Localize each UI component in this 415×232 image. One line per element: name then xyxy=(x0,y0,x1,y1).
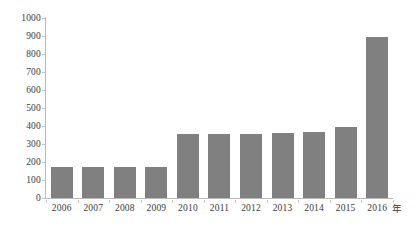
bar-slot xyxy=(204,18,236,198)
y-axis-tick-label: 500 xyxy=(0,103,41,113)
y-axis-tick-mark xyxy=(42,108,45,109)
x-axis-tick-mark xyxy=(330,200,331,203)
bar xyxy=(272,133,294,198)
bar-slot xyxy=(235,18,267,198)
bar-slot xyxy=(361,18,393,198)
bar xyxy=(240,134,262,198)
x-axis-tick-label: 2012 xyxy=(235,203,267,214)
y-axis-tick-mark xyxy=(42,72,45,73)
x-axis-tick-label: 2015 xyxy=(330,203,362,214)
y-axis-tick-label: 0 xyxy=(0,193,41,203)
y-axis-tick-mark xyxy=(42,126,45,127)
x-axis-tick-mark xyxy=(172,200,173,203)
y-axis-tick-mark xyxy=(42,36,45,37)
x-axis-tick-labels: 2006200720082009201020112012201320142015… xyxy=(46,200,393,220)
y-axis-tick-label: 400 xyxy=(0,121,41,131)
x-axis-tick-label: 2013 xyxy=(267,203,299,214)
x-axis-tick-mark xyxy=(204,200,205,203)
x-axis-tick-mark xyxy=(78,200,79,203)
x-axis-tick-label: 2007 xyxy=(78,203,110,214)
bar-slot xyxy=(172,18,204,198)
y-axis-tick-mark xyxy=(42,180,45,181)
x-axis-tick-label: 2008 xyxy=(109,203,141,214)
y-axis-tick-label: 800 xyxy=(0,49,41,59)
bar-slot xyxy=(298,18,330,198)
bar xyxy=(177,134,199,198)
bar-slot xyxy=(330,18,362,198)
bar-series xyxy=(46,18,393,198)
x-axis-tick-label: 2009 xyxy=(141,203,173,214)
bar xyxy=(145,167,167,198)
y-axis-tick-label: 100 xyxy=(0,175,41,185)
x-axis-tick-mark xyxy=(361,200,362,203)
bar-chart: 01002003004005006007008009001000 2006200… xyxy=(0,0,415,232)
bar xyxy=(366,37,388,198)
bar-slot xyxy=(141,18,173,198)
bar-slot xyxy=(267,18,299,198)
y-axis-tick-label: 200 xyxy=(0,157,41,167)
bar xyxy=(335,127,357,198)
y-axis-tick-label: 1000 xyxy=(0,13,41,23)
x-axis-tick-mark xyxy=(267,200,268,203)
x-axis-tick-mark xyxy=(109,200,110,203)
y-axis-tick-mark xyxy=(42,198,45,199)
y-axis-tick-label: 300 xyxy=(0,139,41,149)
bar-slot xyxy=(109,18,141,198)
x-axis-tick-mark xyxy=(141,200,142,203)
x-axis-tick-label: 2010 xyxy=(172,203,204,214)
x-axis-tick-mark xyxy=(298,200,299,203)
y-axis-tick-label: 700 xyxy=(0,67,41,77)
y-axis-tick-mark xyxy=(42,144,45,145)
x-axis-tick-mark xyxy=(235,200,236,203)
bar-slot xyxy=(46,18,78,198)
x-axis-tick-label: 2014 xyxy=(298,203,330,214)
y-axis-tick-mark xyxy=(42,162,45,163)
y-axis-tick-labels: 01002003004005006007008009001000 xyxy=(0,0,41,232)
y-axis-tick-mark xyxy=(42,54,45,55)
x-axis-unit-label: 年 xyxy=(392,203,402,214)
x-axis-line xyxy=(45,198,393,199)
y-axis-tick-label: 900 xyxy=(0,31,41,41)
y-axis-tick-label: 600 xyxy=(0,85,41,95)
bar xyxy=(51,167,73,198)
x-axis-tick-label: 2011 xyxy=(204,203,236,214)
x-axis-tick-mark xyxy=(46,200,47,203)
bar xyxy=(303,132,325,198)
y-axis-tick-mark xyxy=(42,18,45,19)
bar xyxy=(82,167,104,198)
bar xyxy=(208,134,230,198)
y-axis-tick-mark xyxy=(42,90,45,91)
bar-slot xyxy=(78,18,110,198)
x-axis-tick-label: 2006 xyxy=(46,203,78,214)
bar xyxy=(114,167,136,198)
x-axis-tick-label: 2016 xyxy=(361,203,393,214)
